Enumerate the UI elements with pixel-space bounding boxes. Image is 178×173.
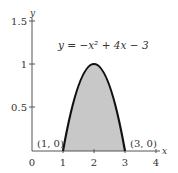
x-tick-label-4: 4	[153, 157, 159, 168]
y-tick-label-0.5: 0.5	[11, 102, 27, 113]
point-label-right: (3, 0)	[130, 138, 157, 149]
equation-label: y = −x² + 4x − 3	[57, 39, 149, 51]
x-tick-label-0: 0	[29, 157, 35, 168]
x-tick-label-3: 3	[122, 157, 128, 168]
point-label-left: (1, 0)	[37, 138, 64, 149]
x-axis-name: x	[162, 146, 167, 156]
y-tick-label-1.5: 1.5	[11, 16, 27, 27]
x-tick-label-2: 2	[91, 157, 97, 168]
y-axis-name: y	[29, 8, 36, 18]
x-tick-label-1: 1	[60, 157, 66, 168]
y-tick-label-1: 1	[21, 59, 27, 70]
chart: 0 1 2 3 4 0.5 1 1.5 x y y = −x² + 4x − 3…	[0, 0, 178, 173]
